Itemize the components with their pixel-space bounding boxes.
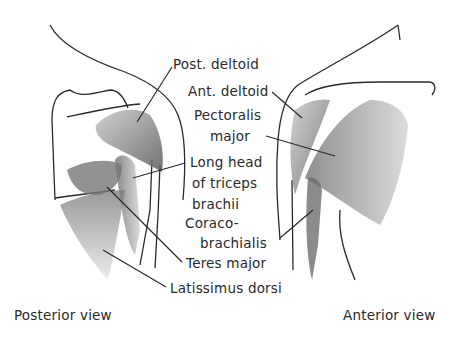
label-long-head-line1: Long head [190, 154, 262, 170]
label-coraco-line2: brachialis [200, 235, 267, 251]
label-long-head-line3: brachii [192, 196, 239, 212]
latissimus-dorsi-muscle [60, 190, 125, 280]
label-coraco-line1: Coraco- [185, 215, 239, 231]
caption-posterior-view: Posterior view [14, 307, 112, 323]
label-post-deltoid: Post. deltoid [173, 56, 259, 72]
label-long-head-line2: of triceps [192, 175, 257, 191]
label-teres-major: Teres major [186, 255, 266, 271]
label-pectoralis-line1: Pectoralis [194, 107, 261, 123]
coracobrachialis-muscle [306, 178, 322, 281]
caption-anterior-view: Anterior view [343, 307, 435, 323]
leader-latissimus [103, 250, 166, 287]
label-ant-deltoid: Ant. deltoid [188, 83, 269, 99]
leader-post-deltoid [137, 67, 172, 122]
label-pectoralis-line2: major [210, 128, 250, 144]
leader-ant-deltoid [272, 92, 302, 118]
shoulder-muscle-diagram: Post. deltoid Ant. deltoid Pectoralis ma… [0, 0, 463, 342]
label-latissimus-dorsi: Latissimus dorsi [170, 280, 282, 296]
